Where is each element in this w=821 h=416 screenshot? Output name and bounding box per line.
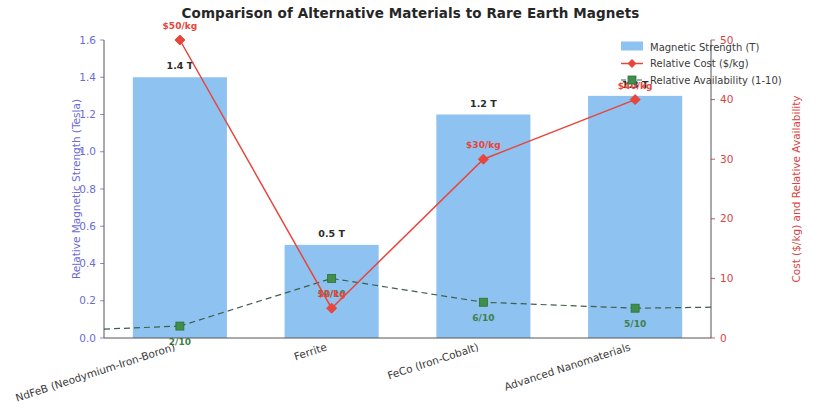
x-axis-tick-label: NdFeB (Neodymium-Iron-Boron) (14, 340, 177, 403)
y-axis-right-tick-label: 40 (720, 93, 733, 105)
availability-value-label: 5/10 (624, 319, 646, 329)
y-axis-right-title: Cost ($/kg) and Relative Availability (790, 95, 802, 282)
cost-value-label: $30/kg (466, 140, 501, 150)
y-axis-left-tick-label: 0.2 (79, 294, 96, 306)
legend-label: Relative Cost ($/kg) (650, 58, 749, 69)
y-axis-left-tick-label: 0.0 (79, 332, 96, 344)
availability-marker (479, 298, 487, 306)
chart-plot-area: 0.00.20.40.60.81.01.21.41.6 01020304050 … (0, 0, 821, 416)
bar-magnetic-strength (588, 96, 682, 338)
x-axis-tick-label: FeCo (Iron-Cobalt) (386, 340, 480, 381)
x-axis-tick-label: Ferrite (292, 340, 328, 362)
y-axis-right-tick-label: 20 (720, 212, 733, 224)
legend-label: Relative Availability (1-10) (650, 75, 782, 86)
legend-marker-relative-cost (628, 59, 637, 68)
y-axis-left-tick-label: 1.6 (79, 34, 96, 46)
legend-marker-relative-availability (628, 76, 636, 84)
cost-marker (175, 35, 185, 45)
chart-figure: Comparison of Alternative Materials to R… (0, 0, 821, 416)
bar-value-label: 0.5 T (318, 228, 345, 239)
legend-swatch-magnetic-strength (621, 42, 643, 51)
cost-value-label: $50/kg (163, 21, 198, 31)
line-series-relative-cost: $50/kg$2/kg$30/kg$40/kg (163, 21, 653, 313)
cost-value-label: $2/kg (318, 289, 346, 299)
availability-value-label: 6/10 (472, 313, 494, 323)
legend-label: Magnetic Strength (T) (650, 42, 759, 53)
bar-magnetic-strength (133, 77, 227, 338)
y-axis-right-tick-label: 30 (720, 153, 733, 165)
availability-marker (176, 322, 184, 330)
y-axis-right-tick-label: 10 (720, 272, 733, 284)
availability-marker (328, 274, 336, 282)
y-axis-left-title: Relative Magnetic Strength (Tesla) (70, 99, 82, 279)
x-axis-tick-label: Advanced Nanomaterials (503, 340, 632, 392)
bar-series-magnetic-strength (133, 77, 682, 338)
y-axis-left-tick-label: 1.4 (79, 71, 96, 83)
y-axis-left-ticks: 0.00.20.40.60.81.01.21.41.6 (79, 34, 104, 344)
bar-value-label: 1.4 T (167, 60, 194, 71)
bar-value-labels: 1.4 T0.5 T1.2 T1.3 T (167, 60, 649, 239)
availability-marker (631, 304, 639, 312)
bar-value-label: 1.2 T (470, 98, 497, 109)
x-axis-tick-labels: NdFeB (Neodymium-Iron-Boron)FerriteFeCo … (14, 340, 632, 403)
y-axis-right-tick-label: 0 (720, 332, 727, 344)
